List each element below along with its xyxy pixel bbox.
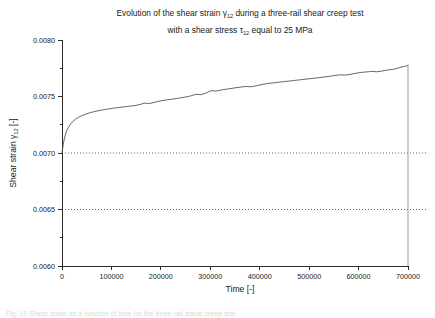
x-tick-label: 100000	[99, 272, 123, 281]
y-tick-label: 0.0060	[33, 262, 55, 271]
title-2-prefix: with a shear stress	[166, 25, 239, 35]
y-tick-label: 0.0080	[33, 36, 55, 45]
y-tick-label: 0.0065	[33, 205, 55, 214]
y-tick-label: 0.0075	[33, 92, 55, 101]
y-axis-title-units: [-]	[8, 118, 18, 128]
chart-title-line-1: Evolution of the shear strain γ12 during…	[117, 8, 365, 19]
x-tick-label: 500000	[297, 272, 321, 281]
x-tick-label: 0	[60, 272, 64, 281]
x-tick-label: 400000	[248, 272, 272, 281]
title-2-suffix: equal to 25 MPa	[249, 25, 313, 35]
x-tick-label: 600000	[347, 272, 371, 281]
x-tick-label: 700000	[396, 272, 420, 281]
y-axis-title: Shear strain γ12 [-]	[8, 118, 19, 187]
x-tick-label: 200000	[149, 272, 173, 281]
title-1-suffix: during a three-rail shear creep test	[233, 8, 364, 18]
page-caption-fragment: Fig. 10 Shear strain as a function of ti…	[6, 309, 246, 318]
chart-figure: Evolution of the shear strain γ12 during…	[0, 0, 435, 318]
figure-background	[0, 0, 435, 318]
title-1-prefix: Evolution of the shear strain	[117, 8, 223, 18]
y-tick-label: 0.0070	[33, 149, 55, 158]
x-axis-title-text: Time [-]	[226, 284, 255, 294]
chart-title-line-2: with a shear stress τ12 equal to 25 MPa	[166, 25, 312, 36]
x-tick-label: 300000	[198, 272, 222, 281]
x-axis-title: Time [-]	[226, 284, 255, 294]
y-axis-title-prefix: Shear strain	[8, 139, 18, 188]
